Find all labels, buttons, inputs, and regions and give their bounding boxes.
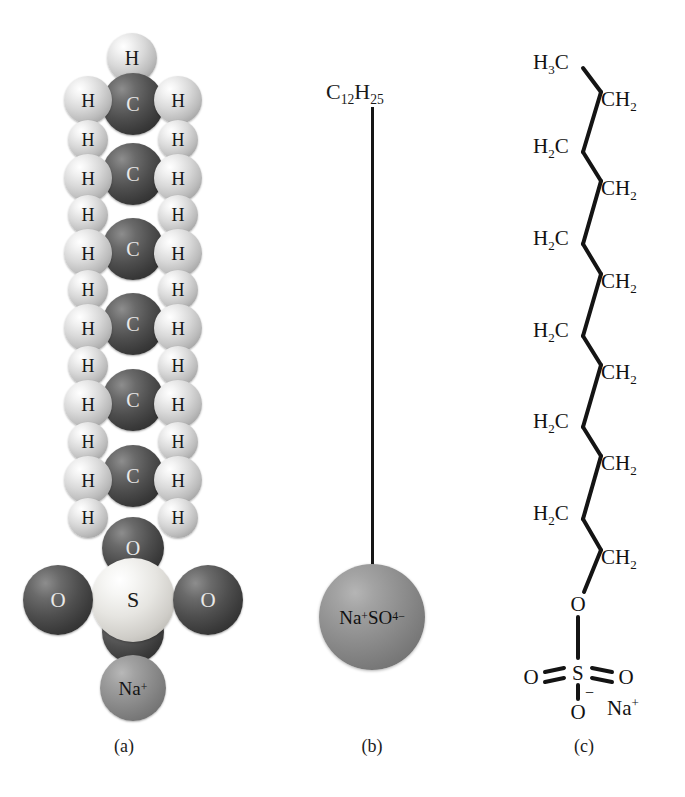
atom-label: H: [172, 509, 185, 527]
c-symbol: C: [555, 501, 569, 525]
c-symbol: C: [601, 360, 615, 384]
c-symbol: C: [555, 226, 569, 250]
atom-symbol: Na: [607, 696, 632, 720]
skeletal-vertex-c3: H2C: [533, 134, 569, 159]
atom-label: H: [82, 281, 95, 299]
atom-sphere-h-18: H: [154, 304, 202, 352]
head-oxygen-left: O: [524, 665, 539, 690]
atom-label: H: [171, 319, 185, 338]
atom-label: H: [81, 319, 95, 338]
atom-label: C: [126, 466, 139, 486]
atom-label: H: [81, 395, 95, 414]
c-symbol: C: [555, 50, 569, 74]
h-symbol: H: [615, 87, 630, 111]
atom-sphere-h-28: H: [154, 456, 202, 504]
atom-symbol: S: [572, 661, 584, 685]
atom-label: H: [171, 244, 185, 263]
skeletal-vertex-c6: CH2: [601, 269, 637, 294]
figure-root: HHCHHHHCHHHHCHHHHCHHHHCHHHHCHHHOOOSONa+ …: [0, 0, 685, 797]
skeletal-vertex-c9: H2C: [533, 409, 569, 434]
skeletal-vertex-c11: H2C: [533, 501, 569, 526]
skeletal-vertex-c1: H3C: [533, 50, 569, 75]
atom-label: H: [82, 357, 95, 375]
atom-label: H: [171, 91, 185, 110]
h-symbol: H: [533, 501, 548, 525]
h-symbol: H: [615, 545, 630, 569]
atom-label: H: [172, 281, 185, 299]
atom-sphere-h-29: H: [68, 498, 108, 538]
c-symbol: C: [601, 176, 615, 200]
c-symbol: C: [601, 545, 615, 569]
skeletal-vertex-c8: CH2: [601, 360, 637, 385]
h-count: 2: [630, 281, 637, 296]
h-symbol: H: [615, 451, 630, 475]
atom-label: H: [172, 131, 185, 149]
atom-symbol: O: [619, 665, 634, 689]
atom-label: S: [127, 589, 139, 611]
atom-charge: +: [632, 695, 639, 710]
atom-symbol: O: [524, 665, 539, 689]
head-sodium-counterion: Na+: [607, 696, 639, 721]
head-oxygen-right: O: [619, 665, 634, 690]
skeletal-vertex-c5: H2C: [533, 226, 569, 251]
h-symbol: H: [533, 134, 548, 158]
atom-label: H: [81, 244, 95, 263]
atom-label: C: [126, 94, 139, 114]
h-symbol: H: [615, 360, 630, 384]
head-ester-oxygen: O: [571, 592, 586, 617]
head-oxygen-anion-charge: −: [585, 684, 594, 702]
skeletal-vertex-c10: CH2: [601, 451, 637, 476]
c-symbol: C: [601, 451, 615, 475]
atom-sphere-h-1: H: [64, 76, 112, 124]
h-count: 2: [630, 557, 637, 572]
atom-sphere-o-32: O: [23, 565, 93, 635]
atom-label: C: [126, 314, 139, 334]
atom-label: C: [126, 164, 139, 184]
atom-label: H: [125, 48, 139, 68]
skeletal-vertex-c4: CH2: [601, 176, 637, 201]
atom-label: H: [82, 433, 95, 451]
atom-sphere-h-16: H: [64, 304, 112, 352]
c-symbol: C: [555, 409, 569, 433]
atom-label: H: [82, 131, 95, 149]
atom-label: H: [81, 91, 95, 110]
atom-sphere-h-3: H: [154, 76, 202, 124]
caption-c: (c): [554, 736, 614, 757]
atom-label: H: [82, 206, 95, 224]
h-symbol: H: [615, 176, 630, 200]
atom-label: O: [200, 590, 215, 611]
c-symbol: C: [601, 269, 615, 293]
atom-sphere-h-23: H: [154, 380, 202, 428]
h-symbol: H: [615, 269, 630, 293]
h-count: 2: [630, 372, 637, 387]
c-symbol: C: [601, 87, 615, 111]
atom-sphere-h-30: H: [158, 498, 198, 538]
atom-label: C: [126, 239, 139, 259]
h-count: 2: [630, 463, 637, 478]
atom-label: H: [172, 357, 185, 375]
atom-label: H: [171, 169, 185, 188]
atom-label: Na: [119, 679, 141, 698]
atom-label: H: [81, 471, 95, 490]
atom-symbol: O: [571, 700, 586, 724]
h-count: 2: [630, 188, 637, 203]
atom-label: H: [171, 471, 185, 490]
atom-label: H: [171, 395, 185, 414]
atom-sphere-o-33: O: [173, 565, 243, 635]
atom-symbol: O: [571, 592, 586, 616]
atom-sphere-s-34: S: [91, 558, 175, 642]
atom-label: H: [81, 169, 95, 188]
h-symbol: H: [533, 50, 548, 74]
skeletal-vertex-c2: CH2: [601, 87, 637, 112]
atom-label: O: [126, 538, 140, 558]
h-symbol: H: [533, 226, 548, 250]
atom-label: H: [172, 206, 185, 224]
c-symbol: C: [555, 318, 569, 342]
caption-b: (b): [342, 736, 402, 757]
caption-a: (a): [94, 736, 154, 757]
head-sulfur: S: [572, 661, 584, 686]
c-symbol: C: [555, 134, 569, 158]
h-count: 2: [630, 99, 637, 114]
atom-label: H: [172, 433, 185, 451]
head-oxygen-anion: O: [571, 700, 586, 725]
